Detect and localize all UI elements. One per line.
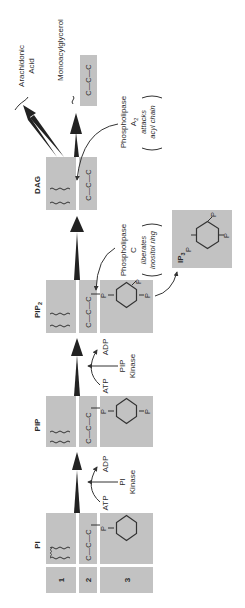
pip2-headgroup-box: [100, 280, 153, 333]
pip-fatty-acid-box: [46, 396, 76, 447]
ip3-phosphate-2: P: [209, 212, 218, 217]
pip-headgroup-box: [100, 396, 153, 447]
pi-kinase-reaction: ATP ADP PI Kinase: [88, 456, 137, 511]
dag-to-arachidonic-acid-arrow: [23, 105, 57, 157]
dag-glycerol: C—C—C: [84, 169, 93, 201]
pip-kinase-label-2: Kinase: [128, 353, 137, 378]
pip-label: PIP: [33, 418, 42, 432]
pip2-molecule: PIP2 C—C—C P P P: [33, 279, 153, 333]
arachidonic-acid-label-2: Acid: [27, 58, 36, 74]
monoacylglycerol-label: Monoacylglycerol: [56, 19, 65, 81]
pip2-to-dag-arrow: [74, 232, 80, 280]
pla2-paren-bottom: [142, 148, 162, 150]
pi-molecule: PI C—C—C P: [33, 513, 153, 564]
pi-kinase-label-1: PI: [118, 478, 127, 486]
pla2-paren-top: [142, 96, 162, 98]
pip-phosphate-1: P: [99, 409, 108, 414]
monoacylglycerol-chain-icon: [72, 96, 74, 104]
plc-paren-top: [142, 224, 162, 226]
row-label-3: 3: [123, 577, 132, 582]
pip-phosphate-2: P: [143, 409, 152, 414]
pip-to-pip2-arrow: [74, 355, 80, 396]
pi-phosphate: P: [99, 526, 108, 531]
arachidonic-acid-label-1: Arachidonic: [17, 45, 26, 87]
pip-kinase-reaction: ATP ADP PIP Kinase: [88, 339, 137, 394]
pip-kinase-label-1: PIP: [118, 360, 127, 373]
plc-label-1: Phospholipase: [119, 223, 128, 276]
pi-kinase-atp: ATP: [101, 496, 110, 511]
pla2-note-1: attacks: [139, 110, 148, 134]
monoacylglycerol-glycerol: C—C—C: [84, 64, 93, 96]
pip-molecule: PIP C—C—C P P: [33, 396, 153, 447]
ip3-phosphate-1: P: [184, 247, 193, 252]
pla2-label-1: Phospholipase: [119, 95, 128, 148]
pla2-label-2: A2: [129, 118, 139, 126]
row-labels: 1 2 3: [46, 567, 153, 593]
pip-glycerol: C—C—C: [84, 412, 93, 444]
dag-to-monoacylglycerol-arrow: [74, 132, 79, 157]
pi-label: PI: [33, 541, 42, 549]
plc-note-1: liberates: [139, 236, 148, 265]
pip2-glycerol: C—C—C: [84, 296, 93, 328]
ip3-phosphate-3: P: [222, 233, 231, 238]
pip-kinase-adp: ADP: [101, 339, 110, 355]
pi-kinase-adp: ADP: [101, 456, 110, 472]
pip2-phosphate-3: P: [134, 279, 143, 284]
plc-paren-bottom: [142, 274, 162, 276]
plc-label-2: C: [129, 247, 138, 253]
pip-kinase-atp: ATP: [101, 379, 110, 394]
pip2-phosphate-1: P: [99, 293, 108, 298]
pla2-note-2: acyl chain: [148, 105, 157, 138]
pi-glycerol: C—C—C: [84, 529, 93, 561]
phosphoinositide-pathway-diagram: 1 2 3 PI C—C—C P ATP ADP PI Kinase PIP: [0, 0, 245, 608]
dag-label: DAG: [33, 176, 42, 194]
pip2-label: PIP2: [33, 302, 43, 318]
ip3-molecule: IP3 P P P: [172, 210, 232, 268]
pi-kinase-label-2: Kinase: [128, 469, 137, 494]
row-label-1: 1: [57, 577, 66, 582]
row-label-2: 2: [84, 577, 93, 582]
plc-note-2: inositol ring: [148, 230, 157, 269]
pi-headgroup-box: [100, 513, 153, 564]
pip2-phosphate-2: P: [143, 293, 152, 298]
dag-molecule: DAG C—C—C: [33, 157, 97, 210]
